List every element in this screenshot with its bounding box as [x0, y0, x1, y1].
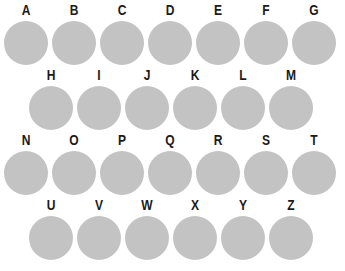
circle-cell[interactable]: S [244, 130, 288, 195]
circle-label: D [151, 1, 189, 19]
circle-shape[interactable] [100, 151, 144, 195]
circle-label: T [295, 131, 333, 149]
circle-shape[interactable] [29, 86, 73, 130]
circle-shape[interactable] [4, 151, 48, 195]
circle-grid: ABCDEFGHIJKLMNOPQRSTUVWXYZ [0, 0, 345, 271]
circle-cell[interactable]: B [52, 0, 96, 65]
circle-cell[interactable]: R [196, 130, 240, 195]
circle-label: X [176, 196, 214, 214]
circle-cell[interactable]: J [125, 65, 169, 130]
circle-shape[interactable] [52, 21, 96, 65]
circle-row: ABCDEFG [0, 0, 345, 65]
circle-shape[interactable] [196, 151, 240, 195]
circle-shape[interactable] [173, 216, 217, 260]
circle-shape[interactable] [269, 86, 313, 130]
circle-cell[interactable]: M [269, 65, 313, 130]
circle-shape[interactable] [173, 86, 217, 130]
circle-shape[interactable] [148, 151, 192, 195]
circle-label: M [272, 66, 310, 84]
circle-shape[interactable] [292, 21, 336, 65]
circle-cell[interactable]: F [244, 0, 288, 65]
circle-shape[interactable] [196, 21, 240, 65]
circle-cell[interactable]: Y [221, 195, 265, 260]
circle-cell[interactable]: E [196, 0, 240, 65]
circle-label: N [7, 131, 45, 149]
circle-shape[interactable] [4, 21, 48, 65]
circle-shape[interactable] [221, 216, 265, 260]
circle-cell[interactable]: L [221, 65, 265, 130]
circle-label: R [199, 131, 237, 149]
circle-shape[interactable] [77, 216, 121, 260]
circle-shape[interactable] [221, 86, 265, 130]
circle-cell[interactable]: T [292, 130, 336, 195]
circle-shape[interactable] [100, 21, 144, 65]
circle-label: Z [272, 196, 310, 214]
circle-cell[interactable]: D [148, 0, 192, 65]
circle-cell[interactable]: Z [269, 195, 313, 260]
circle-row: UVWXYZ [0, 195, 345, 260]
circle-shape[interactable] [269, 216, 313, 260]
circle-cell[interactable]: I [77, 65, 121, 130]
circle-label: O [55, 131, 93, 149]
circle-cell[interactable]: N [4, 130, 48, 195]
circle-shape[interactable] [125, 86, 169, 130]
circle-label: A [7, 1, 45, 19]
circle-cell[interactable]: W [125, 195, 169, 260]
circle-shape[interactable] [29, 216, 73, 260]
circle-cell[interactable]: H [29, 65, 73, 130]
circle-shape[interactable] [244, 21, 288, 65]
circle-cell[interactable]: Q [148, 130, 192, 195]
circle-shape[interactable] [125, 216, 169, 260]
circle-label: H [32, 66, 70, 84]
circle-label: E [199, 1, 237, 19]
circle-label: W [128, 196, 166, 214]
circle-label: B [55, 1, 93, 19]
circle-shape[interactable] [292, 151, 336, 195]
circle-row: HIJKLM [0, 65, 345, 130]
circle-label: Q [151, 131, 189, 149]
circle-label: J [128, 66, 166, 84]
circle-row: NOPQRST [0, 130, 345, 195]
circle-cell[interactable]: P [100, 130, 144, 195]
circle-cell[interactable]: X [173, 195, 217, 260]
circle-shape[interactable] [148, 21, 192, 65]
circle-cell[interactable]: A [4, 0, 48, 65]
circle-cell[interactable]: O [52, 130, 96, 195]
circle-cell[interactable]: K [173, 65, 217, 130]
circle-label: F [247, 1, 285, 19]
circle-shape[interactable] [52, 151, 96, 195]
circle-shape[interactable] [244, 151, 288, 195]
circle-label: Y [224, 196, 262, 214]
circle-label: C [103, 1, 141, 19]
circle-shape[interactable] [77, 86, 121, 130]
circle-cell[interactable]: G [292, 0, 336, 65]
circle-label: V [80, 196, 118, 214]
circle-label: I [80, 66, 118, 84]
circle-cell[interactable]: V [77, 195, 121, 260]
circle-label: L [224, 66, 262, 84]
circle-label: K [176, 66, 214, 84]
circle-label: P [103, 131, 141, 149]
circle-cell[interactable]: U [29, 195, 73, 260]
circle-label: U [32, 196, 70, 214]
circle-label: G [295, 1, 333, 19]
circle-label: S [247, 131, 285, 149]
circle-cell[interactable]: C [100, 0, 144, 65]
